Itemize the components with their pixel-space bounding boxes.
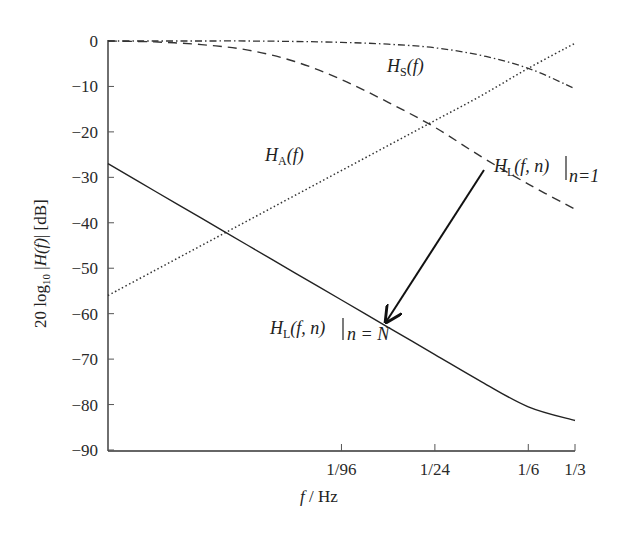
- y-tick-label: −60: [71, 305, 98, 324]
- y-tick-label: −10: [71, 77, 98, 96]
- curve-hs: [108, 41, 575, 89]
- x-tick-label: 1/3: [564, 460, 586, 479]
- chart-canvas: 0−10−20−30−40−50−60−70−80−90 1/961/241/6…: [0, 0, 618, 536]
- y-ticks: [108, 41, 114, 450]
- y-axis-title: 20 log10 |H(f)| [dB]: [31, 199, 52, 328]
- axes: [108, 40, 575, 451]
- x-tick-label: 1/6: [517, 460, 539, 479]
- y-tick-label: −80: [71, 396, 98, 415]
- curve-hl-n1: [108, 41, 575, 209]
- y-tick-label: −30: [71, 168, 98, 187]
- label-hs: HS(f): [386, 56, 424, 79]
- x-ticks: [341, 444, 575, 451]
- x-tick-label: 1/24: [420, 460, 451, 479]
- x-tick-label: 1/96: [326, 460, 356, 479]
- label-hl-n1: HL(f, n): [493, 156, 549, 179]
- y-tick-labels: 0−10−20−30−40−50−60−70−80−90: [71, 32, 98, 460]
- y-tick-label: −70: [71, 350, 98, 369]
- y-tick-label: 0: [90, 32, 99, 51]
- cond-n1: n=1: [569, 166, 599, 186]
- y-tick-label: −90: [71, 441, 98, 460]
- x-tick-labels: 1/961/241/61/3: [326, 460, 586, 479]
- label-ha: HA(f): [264, 145, 304, 168]
- y-tick-label: −20: [71, 123, 98, 142]
- curve-hl-nN: [108, 164, 575, 421]
- label-hl-nN: HL(f, n): [269, 318, 325, 341]
- y-tick-label: −40: [71, 214, 98, 233]
- y-tick-label: −50: [71, 259, 98, 278]
- x-axis-title: f / Hz: [300, 487, 338, 506]
- cond-nN: n = N: [347, 324, 390, 344]
- svg-text:20 log10 |H(f)| [dB]: 20 log10 |H(f)| [dB]: [31, 199, 52, 328]
- arrow: [386, 170, 484, 322]
